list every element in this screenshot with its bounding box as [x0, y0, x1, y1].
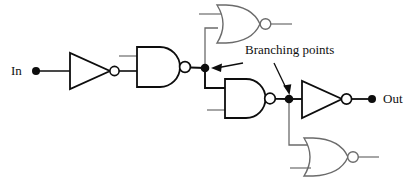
- branching-points-label: Branching points: [245, 43, 334, 56]
- callout-arrow-1-shaft: [219, 63, 243, 68]
- nor-bottom-bubble: [348, 152, 359, 163]
- circuit-schematic-svg: [0, 0, 413, 186]
- nand1-body: [137, 47, 180, 87]
- nand-gate-2: [207, 79, 289, 118]
- branching-point-2-dot: [285, 95, 294, 104]
- nand2-body: [225, 79, 266, 118]
- nor-gate-top: [199, 5, 292, 43]
- nand1-bubble: [180, 62, 191, 73]
- callout-arrow-2-head: [283, 84, 291, 95]
- output-terminal-dot: [368, 95, 376, 103]
- output-label: Out: [383, 92, 403, 105]
- callout-arrow-1-head: [211, 64, 222, 72]
- inverter-1: [70, 53, 137, 89]
- inverter-1-bubble: [110, 66, 119, 75]
- branching-point-1-dot: [201, 64, 210, 73]
- nor-top-bubble: [260, 19, 271, 30]
- inverter-2-bubble: [341, 94, 351, 104]
- inverter-1-triangle: [70, 53, 110, 89]
- nor-bottom-body: [304, 138, 348, 176]
- input-net: [32, 67, 70, 75]
- callout-arrow-2-shaft: [274, 63, 286, 88]
- nor-gate-bottom: [290, 138, 379, 176]
- wire-branch1-to-nor-top: [205, 28, 218, 68]
- nor-top-body: [217, 5, 260, 43]
- nand2-bubble: [265, 93, 276, 104]
- nand-gate-1: [119, 47, 205, 87]
- logic-circuit-diagram: In Out Branching points: [0, 0, 413, 186]
- branching-point-1: [201, 28, 225, 88]
- input-label: In: [11, 64, 22, 77]
- inverter-2-triangle: [302, 81, 342, 118]
- inverter-2: [302, 81, 376, 118]
